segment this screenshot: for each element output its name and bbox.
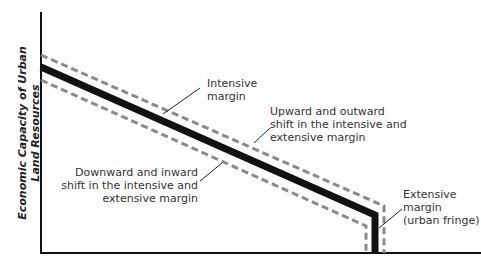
y-axis-label-line2: Land Resources: [29, 38, 42, 228]
y-axis-label: Economic Capacity of Urban Land Resource…: [16, 38, 42, 228]
downward-shift-label: Downward and inward shift in the intensi…: [60, 166, 198, 205]
label-line: Extensive: [403, 188, 479, 201]
y-axis-label-line1: Economic Capacity of Urban: [16, 38, 29, 228]
intensive-margin-label: Intensive margin: [207, 77, 257, 103]
label-line: Downward and inward: [60, 166, 198, 179]
label-line: extensive margin: [270, 131, 407, 144]
upward-shift-label: Upward and outward shift in the intensiv…: [270, 105, 407, 144]
extensive-margin-pointer: [379, 209, 402, 228]
label-line: shift in the intensive and: [60, 179, 198, 192]
intensive-margin-pointer: [163, 88, 200, 114]
label-line: (urban fringe): [403, 214, 479, 227]
extensive-margin-label: Extensive margin (urban fringe): [403, 188, 479, 227]
downward-shift-pointer: [200, 163, 222, 181]
label-line: margin: [403, 201, 479, 214]
label-line: Upward and outward: [270, 105, 407, 118]
upward-shift-pointer: [254, 128, 270, 143]
label-line: margin: [207, 90, 257, 103]
label-line: shift in the intensive and: [270, 118, 407, 131]
label-line: extensive margin: [60, 192, 198, 205]
label-line: Intensive: [207, 77, 257, 90]
